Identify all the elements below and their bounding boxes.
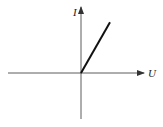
- iu-graph: I U: [0, 0, 163, 127]
- y-axis-label: I: [72, 6, 78, 18]
- x-axis-label: U: [148, 67, 157, 79]
- iu-line: [81, 22, 110, 73]
